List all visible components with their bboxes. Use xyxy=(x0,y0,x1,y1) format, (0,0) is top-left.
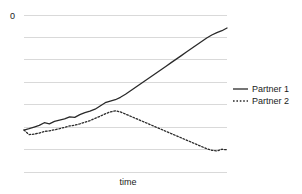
legend-item-partner-1[interactable]: Partner 1 xyxy=(233,84,289,94)
series-line-partner-2 xyxy=(24,111,227,151)
series-line-partner-1 xyxy=(24,28,227,130)
legend: Partner 1 Partner 2 xyxy=(233,84,289,106)
legend-label-partner-1: Partner 1 xyxy=(252,84,289,94)
legend-label-partner-2: Partner 2 xyxy=(252,96,289,106)
gridlines-group xyxy=(24,15,227,172)
x-axis-title: time xyxy=(119,177,136,187)
y-axis-tick-label-0: 0 xyxy=(10,11,15,21)
legend-item-partner-2[interactable]: Partner 2 xyxy=(233,96,289,106)
line-chart-canvas: 0 time Partner 1 Partner 2 xyxy=(0,0,302,194)
chart-figure: 0 time Partner 1 Partner 2 xyxy=(0,0,302,194)
